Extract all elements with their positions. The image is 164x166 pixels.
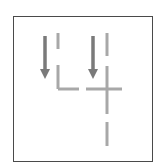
arrow-left-icon (40, 36, 50, 79)
arrow-right-icon (88, 36, 98, 79)
arrows-group (40, 36, 98, 79)
wire-diagram (0, 0, 164, 166)
wires-group (58, 33, 122, 146)
